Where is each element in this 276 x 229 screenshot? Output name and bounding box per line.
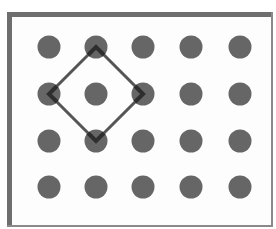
grid-dot — [180, 83, 203, 106]
grid-dot — [229, 130, 252, 153]
frame-left-border — [7, 12, 12, 227]
grid-dot — [229, 36, 252, 59]
frame-bottom-border — [7, 225, 273, 227]
frame-right-border — [271, 12, 273, 227]
grid-dot — [38, 36, 61, 59]
grid-dot — [132, 130, 155, 153]
grid-dot — [132, 36, 155, 59]
grid-dot — [180, 130, 203, 153]
grid-dot — [85, 83, 108, 106]
grid-dot — [38, 176, 61, 199]
grid-dot — [132, 176, 155, 199]
grid-dot — [85, 176, 108, 199]
frame-top-border — [7, 12, 273, 17]
dot-grid-diagram — [0, 0, 276, 229]
grid-dot — [180, 36, 203, 59]
grid-dot — [180, 176, 203, 199]
grid-dot — [229, 83, 252, 106]
grid-dot — [38, 130, 61, 153]
grid-dot — [229, 176, 252, 199]
